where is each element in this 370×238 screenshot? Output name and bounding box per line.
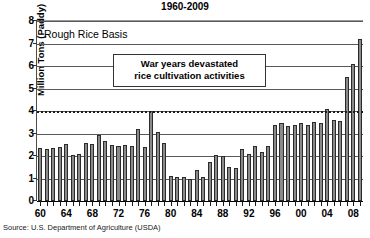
gridline-y-7 <box>37 44 363 45</box>
y-tick-label: 8 <box>28 16 34 26</box>
y-tick-label: 5 <box>28 84 34 94</box>
bar <box>279 123 283 201</box>
bar <box>234 168 238 201</box>
x-tick-mark <box>340 201 341 206</box>
x-tick-label: 76 <box>139 208 150 219</box>
x-tick-label: 00 <box>295 208 306 219</box>
x-tick-mark <box>40 201 41 206</box>
bar <box>306 125 310 202</box>
x-tick-label: 88 <box>217 208 228 219</box>
source-note: Source: U.S. Department of Agriculture (… <box>3 223 161 232</box>
bar <box>136 129 140 201</box>
x-tick-mark <box>47 201 48 206</box>
x-tick-mark <box>314 201 315 206</box>
chart-figure: 1960-2009 Million Tons (Paddy) 012345678… <box>0 0 370 238</box>
x-tick-mark <box>347 201 348 206</box>
x-tick-mark <box>138 201 139 206</box>
x-tick-label: 60 <box>35 208 46 219</box>
y-tick-label: 1 <box>28 174 34 184</box>
bar <box>169 176 173 201</box>
y-tick-label: 4 <box>28 106 34 116</box>
x-tick-mark <box>236 201 237 206</box>
x-tick-mark <box>184 201 185 206</box>
x-tick-label: 96 <box>269 208 280 219</box>
x-tick-label: 68 <box>87 208 98 219</box>
gridline-y-5 <box>37 89 363 90</box>
x-tick-mark <box>360 201 361 206</box>
x-tick-mark <box>301 201 302 206</box>
plot-area: Million Tons (Paddy) 0123456786064687276… <box>36 20 363 201</box>
x-tick-mark <box>164 201 165 206</box>
bar <box>325 109 329 201</box>
x-tick-mark <box>327 201 328 206</box>
bar <box>71 155 75 201</box>
x-tick-mark <box>203 201 204 206</box>
y-tick-label: 3 <box>28 129 34 139</box>
bar <box>332 120 336 201</box>
annotation-line-2: rice cultivation activities <box>118 70 261 82</box>
bar <box>162 143 166 202</box>
x-tick-mark <box>112 201 113 206</box>
x-tick-mark <box>229 201 230 206</box>
bar <box>208 162 212 201</box>
bar <box>247 154 251 201</box>
y-axis-title: Million Tons (Paddy) <box>35 0 46 125</box>
bar <box>103 141 107 201</box>
bar <box>97 135 101 201</box>
x-tick-label: 72 <box>113 208 124 219</box>
x-tick-label: 08 <box>348 208 359 219</box>
gridline-y-8 <box>37 21 363 22</box>
annotation-callout: War years devastated rice cultivation ac… <box>113 54 266 87</box>
y-tick-label: 6 <box>28 61 34 71</box>
bar <box>84 143 88 202</box>
y-tick-label: 2 <box>28 151 34 161</box>
x-tick-mark <box>73 201 74 206</box>
bar <box>221 156 225 201</box>
bar <box>110 145 114 201</box>
bar <box>286 126 290 201</box>
reference-line <box>37 111 363 113</box>
x-tick-mark <box>79 201 80 206</box>
bar <box>90 144 94 201</box>
bar <box>58 147 62 201</box>
bar <box>182 177 186 201</box>
bar <box>312 122 316 201</box>
x-tick-mark <box>105 201 106 206</box>
x-tick-mark <box>334 201 335 206</box>
x-tick-mark <box>275 201 276 206</box>
bar <box>116 146 120 201</box>
bar <box>260 152 264 202</box>
annotation-line-1: War years devastated <box>118 58 261 70</box>
y-tick-label: 0 <box>28 196 34 206</box>
x-tick-mark <box>255 201 256 206</box>
bar <box>123 145 127 201</box>
x-tick-mark <box>66 201 67 206</box>
x-tick-mark <box>223 201 224 206</box>
bar <box>319 123 323 201</box>
x-tick-mark <box>125 201 126 206</box>
x-tick-mark <box>282 201 283 206</box>
x-tick-mark <box>216 201 217 206</box>
bar <box>299 123 303 201</box>
x-tick-mark <box>99 201 100 206</box>
x-tick-mark <box>353 201 354 206</box>
x-tick-mark <box>171 201 172 206</box>
x-tick-mark <box>60 201 61 206</box>
bar <box>149 111 153 201</box>
bar <box>338 121 342 201</box>
x-tick-label: 92 <box>243 208 254 219</box>
x-tick-mark <box>119 201 120 206</box>
y-tick-label: 7 <box>28 39 34 49</box>
bar <box>266 146 270 201</box>
bar <box>77 154 81 201</box>
x-tick-mark <box>177 201 178 206</box>
x-tick-label: 80 <box>165 208 176 219</box>
x-tick-mark <box>295 201 296 206</box>
bar <box>214 155 218 201</box>
x-tick-mark <box>249 201 250 206</box>
x-tick-mark <box>86 201 87 206</box>
bar <box>227 167 231 201</box>
bar <box>45 149 49 201</box>
x-tick-mark <box>190 201 191 206</box>
bar <box>143 147 147 201</box>
